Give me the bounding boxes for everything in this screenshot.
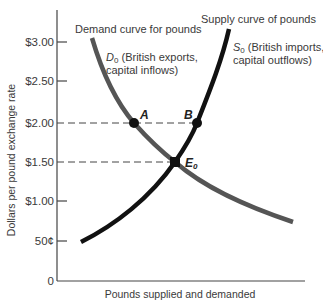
- supply-curve-sublabel-1: S0 (British imports,: [233, 41, 323, 55]
- point-a-label: A: [139, 108, 149, 122]
- point-b-label: B: [184, 108, 193, 122]
- demand-curve-title: Demand curve for pounds: [75, 23, 202, 35]
- y-tick-label: $2.50: [25, 75, 54, 87]
- y-tick-label: $1.50: [25, 156, 54, 168]
- y-tick-label: $3.00: [25, 36, 54, 48]
- y-tick-label: 0: [48, 275, 54, 287]
- supply-curve-sublabel-2: capital outflows): [233, 54, 312, 66]
- y-axis-title: Dollars per pound exchange rate: [5, 84, 17, 237]
- x-axis-title: Pounds supplied and demanded: [105, 288, 256, 300]
- y-tick-label: 50¢: [35, 235, 54, 247]
- y-tick-label: $1.00: [25, 195, 54, 207]
- point-e0: [170, 157, 180, 167]
- point-a: [129, 118, 139, 128]
- demand-curve-sublabel-1: D0 (British exports,: [106, 51, 198, 65]
- y-tick-label: $2.00: [25, 117, 54, 129]
- y-ticks: [57, 42, 67, 241]
- point-b: [192, 118, 202, 128]
- demand-curve-sublabel-2: capital inflows): [106, 64, 178, 76]
- supply-curve-title: Supply curve of pounds: [201, 13, 316, 25]
- point-e0-label: E0: [185, 156, 198, 171]
- exchange-rate-chart: $3.00 $2.50 $2.00 $1.50 $1.00 50¢ 0 A B …: [0, 0, 323, 306]
